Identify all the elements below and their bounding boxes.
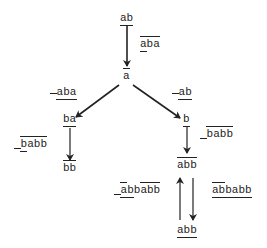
edge-label-aba-1: aba: [140, 38, 160, 50]
node-a: a: [123, 70, 130, 82]
edge-a-to-ba: [76, 85, 119, 117]
node-b: b: [183, 113, 190, 125]
edge-label-babb-right: babb: [200, 128, 233, 140]
node-bb: bb: [63, 162, 76, 174]
node-abb-bottom: abb: [177, 224, 197, 236]
edges-layer: [0, 0, 267, 248]
node-abb-top: abb: [177, 159, 197, 171]
edge-label-abbabb-right: abbabb: [212, 184, 252, 196]
node-ba: ba: [63, 113, 76, 125]
edge-label-abbabb-left: abbabb: [114, 184, 160, 196]
node-ab: ab: [120, 12, 133, 24]
edge-label-babb-left: babb: [14, 138, 47, 150]
edge-label-aba-2: aba: [50, 86, 76, 98]
edge-label-ab: ab: [172, 86, 192, 98]
